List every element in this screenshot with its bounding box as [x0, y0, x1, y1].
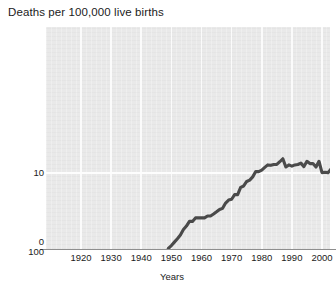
x-axis-line: [40, 249, 336, 250]
x-tick-label-2000: 2000: [311, 252, 332, 263]
x-axis-title: Years: [160, 271, 184, 282]
x-tick-label-1940: 1940: [131, 252, 152, 263]
y-tick-label-10: 10: [2, 167, 44, 178]
series-line-maternal-mortality-rate: [46, 27, 330, 249]
x-tick-label-1920: 1920: [70, 252, 91, 263]
x-tick-label-1980: 1980: [251, 252, 272, 263]
plot-area: [46, 27, 330, 249]
chart-figure: Deaths per 100,000 live births 1,0001001…: [0, 0, 336, 298]
x-tick-label-1960: 1960: [191, 252, 212, 263]
series-path: [66, 159, 330, 249]
x-tick-label-1970: 1970: [221, 252, 242, 263]
x-tick-label-1930: 1930: [101, 252, 122, 263]
x-tick-label-1990: 1990: [281, 252, 302, 263]
y-tick-label-100: 100: [2, 246, 44, 257]
y-axis-tick-labels: 1,000100100: [0, 0, 44, 298]
x-tick-label-1950: 1950: [161, 252, 182, 263]
y-tick-label-0: 0: [2, 236, 44, 247]
